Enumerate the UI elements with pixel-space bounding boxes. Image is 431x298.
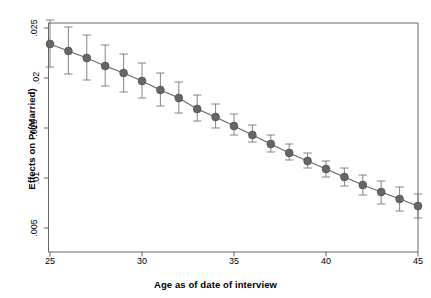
- data-point: [322, 165, 330, 173]
- y-tick-label: .005: [9, 221, 43, 235]
- data-point: [101, 62, 109, 70]
- data-point: [138, 77, 146, 85]
- y-tick-label: .01: [9, 171, 43, 185]
- data-point: [83, 54, 91, 62]
- data-point: [120, 69, 128, 77]
- data-point: [175, 94, 183, 102]
- effects-on-pr-married-line-chart: [0, 0, 431, 298]
- x-tick-label: 25: [35, 256, 65, 266]
- data-point: [341, 173, 349, 181]
- data-point: [267, 140, 275, 148]
- data-point: [65, 47, 73, 55]
- chart-background: [0, 0, 431, 298]
- y-tick-label: .025: [9, 21, 43, 35]
- data-point: [249, 131, 257, 139]
- data-point: [396, 195, 404, 203]
- data-point: [359, 181, 367, 189]
- x-tick-label: 30: [127, 256, 157, 266]
- data-point: [157, 86, 165, 94]
- x-axis-title: Age as of date of interview: [0, 279, 431, 290]
- data-point: [193, 105, 201, 113]
- x-tick-label: 40: [311, 256, 341, 266]
- data-point: [304, 157, 312, 165]
- y-tick-label: .02: [9, 71, 43, 85]
- data-point: [377, 188, 385, 196]
- x-tick-label: 35: [219, 256, 249, 266]
- data-point: [414, 202, 422, 210]
- data-point: [46, 40, 54, 48]
- data-point: [230, 122, 238, 130]
- x-tick-label: 45: [403, 256, 431, 266]
- data-point: [212, 113, 220, 121]
- chart-figure: Age as of date of interview Effects on P…: [0, 0, 431, 298]
- y-tick-label: .015: [9, 121, 43, 135]
- data-point: [285, 149, 293, 157]
